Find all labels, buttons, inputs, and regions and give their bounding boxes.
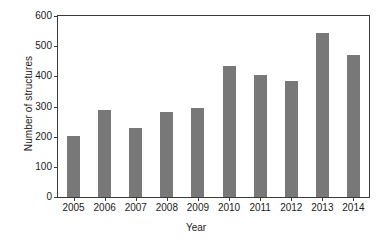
bar: [129, 128, 142, 197]
x-axis-tick-label: 2012: [280, 203, 302, 213]
x-axis-tick-label: 2010: [218, 203, 240, 213]
x-axis-tick-label: 2011: [249, 203, 271, 213]
x-axis-tick-mark: [74, 197, 75, 201]
bar-chart: Number of structures 0100200300400500600…: [0, 0, 392, 243]
y-axis-tick-label: 300: [35, 102, 58, 112]
x-axis-tick-mark: [105, 197, 106, 201]
bar: [67, 136, 80, 197]
y-axis-title: Number of structures: [23, 24, 34, 184]
y-axis-tick-label: 600: [35, 11, 58, 21]
x-axis-tick-mark: [353, 197, 354, 201]
bar: [223, 66, 236, 197]
bar: [191, 108, 204, 197]
x-axis-tick-mark: [322, 197, 323, 201]
bar: [285, 81, 298, 197]
x-axis-tick-label: 2008: [156, 203, 178, 213]
bar: [347, 55, 360, 197]
x-axis-tick-mark: [291, 197, 292, 201]
x-axis-tick-label: 2005: [62, 203, 84, 213]
x-axis-tick-mark: [136, 197, 137, 201]
bar: [160, 112, 173, 197]
x-axis-tick-mark: [198, 197, 199, 201]
bar: [98, 110, 111, 197]
x-axis-tick-label: 2014: [342, 203, 364, 213]
x-axis-title: Year: [0, 222, 392, 233]
x-axis-tick-label: 2007: [125, 203, 147, 213]
x-axis-tick-label: 2013: [311, 203, 333, 213]
x-axis-tick-mark: [260, 197, 261, 201]
x-axis-tick-label: 2006: [94, 203, 116, 213]
y-axis-tick-label: 0: [46, 192, 58, 202]
plot-area: 0100200300400500600200520062007200820092…: [57, 15, 370, 198]
y-axis-tick-label: 500: [35, 41, 58, 51]
y-axis-tick-label: 400: [35, 71, 58, 81]
y-axis-tick-label: 200: [35, 132, 58, 142]
x-axis-tick-mark: [167, 197, 168, 201]
x-axis-tick-label: 2009: [187, 203, 209, 213]
y-axis-tick-label: 100: [35, 162, 58, 172]
bar: [316, 33, 329, 197]
bar: [254, 75, 267, 197]
x-axis-tick-mark: [229, 197, 230, 201]
